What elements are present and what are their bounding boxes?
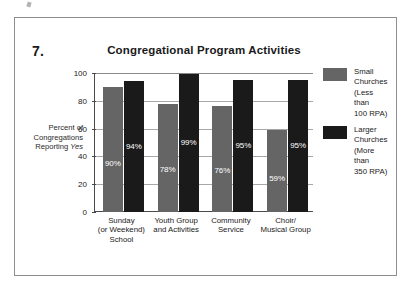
y-tick-label-20: 20 <box>78 180 87 189</box>
bar-value-label-small-1: 78% <box>158 165 178 174</box>
legend-label-larger-churches: Larger Churches (More than 350 RPA) <box>354 125 387 177</box>
x-axis-category-label-0: Sunday (or Weekend) School <box>90 216 153 244</box>
y-axis-title: Percent of Congregations Reporting Yes <box>21 123 83 152</box>
y-tick-0: 0 <box>92 212 96 213</box>
bar-small-3: 59% <box>267 130 287 212</box>
x-axis-category-label-1: Youth Group and Activities <box>145 216 208 235</box>
bar-value-label-small-3: 59% <box>267 174 287 183</box>
y-tick-label-80: 80 <box>78 96 87 105</box>
bar-value-label-larger-3: 95% <box>288 141 308 150</box>
x-axis-category-label-3: Choir/ Musical Group <box>254 216 317 235</box>
bar-value-label-larger-2: 95% <box>233 141 253 150</box>
legend-entry-larger-churches[interactable]: Larger Churches (More than 350 RPA) <box>323 125 387 177</box>
x-axis-category-label-2: Community Service <box>200 216 263 235</box>
bars-layer: 90%94%78%99%76%95%59%95% <box>94 73 313 212</box>
bar-larger-1: 99% <box>179 74 199 212</box>
legend-swatch-small-churches <box>323 68 347 81</box>
bar-value-label-larger-0: 94% <box>124 142 144 151</box>
bar-larger-3: 95% <box>288 80 308 212</box>
bar-small-2: 76% <box>212 106 232 212</box>
chart-title: Congregational Program Activities <box>94 44 314 56</box>
y-tick-label-40: 40 <box>78 152 87 161</box>
y-axis-title-line3: Reporting <box>35 142 70 151</box>
bar-value-label-small-2: 76% <box>212 166 232 175</box>
figure-frame: 7. Congregational Program Activities Per… <box>14 17 397 276</box>
legend-entry-small-churches[interactable]: Small Churches (Less than 100 RPA) <box>323 67 387 119</box>
legend-swatch-larger-churches <box>323 126 347 139</box>
bar-larger-2: 95% <box>233 80 253 212</box>
figure-number: 7. <box>32 43 44 59</box>
y-tick-label-0: 0 <box>83 208 87 217</box>
bar-small-1: 78% <box>158 104 178 212</box>
bar-small-0: 90% <box>103 87 123 212</box>
y-tick-label-60: 60 <box>78 124 87 133</box>
legend-label-small-churches: Small Churches (Less than 100 RPA) <box>354 67 387 119</box>
bar-value-label-small-0: 90% <box>103 159 123 168</box>
plot-area: 100 80 60 40 20 0 90%94%78%99%76%95%59%9… <box>94 73 313 212</box>
bar-larger-0: 94% <box>124 81 144 212</box>
y-tick-label-100: 100 <box>74 69 87 78</box>
scan-artifact-speck <box>26 2 31 8</box>
y-axis-title-emphasis: Yes <box>70 142 83 151</box>
bar-value-label-larger-1: 99% <box>179 138 199 147</box>
y-axis-title-line2: Congregations <box>34 133 83 142</box>
